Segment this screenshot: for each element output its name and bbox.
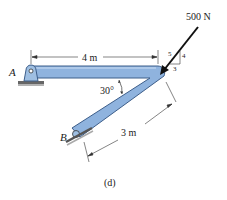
label-4m: 4 m — [82, 52, 98, 63]
slope-vertical: 4 — [182, 52, 186, 60]
caption: (d) — [104, 177, 116, 189]
bent-member — [30, 66, 165, 137]
label-b: B — [60, 131, 67, 143]
slope-hyp: 5 — [168, 50, 172, 58]
label-force: 500 N — [186, 11, 211, 22]
force-arrow — [160, 27, 198, 75]
frame-diagram: A B 4 m 30° 3 m 500 N 5 — [0, 0, 227, 200]
angle-marker — [118, 80, 123, 94]
label-a: A — [8, 66, 16, 78]
slope-horizontal: 3 — [173, 65, 177, 73]
label-30deg: 30° — [100, 85, 114, 96]
pin-support-a — [18, 81, 44, 85]
label-3m: 3 m — [121, 127, 137, 138]
